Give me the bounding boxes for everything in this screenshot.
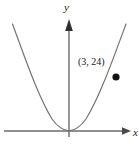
point-coordinate-label: (3, 24)	[78, 57, 105, 67]
parabola-figure: y x (3, 24)	[0, 0, 139, 146]
plot-canvas	[0, 0, 139, 146]
x-axis-label: x	[133, 127, 138, 138]
y-axis-arrowhead	[65, 19, 73, 31]
x-axis-arrowhead	[122, 127, 131, 135]
marked-point-dot	[112, 73, 119, 80]
y-axis-label: y	[64, 2, 69, 13]
